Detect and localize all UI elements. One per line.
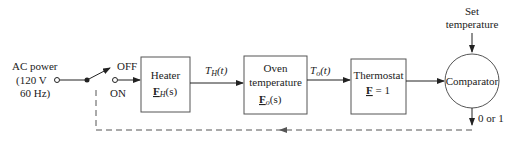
thermostat-title: Thermostat bbox=[353, 69, 403, 81]
heater-block: Heater FH(s) bbox=[141, 57, 190, 112]
heater-title: Heater bbox=[151, 69, 181, 81]
heater-output-signal: TH(t) bbox=[205, 64, 228, 78]
oven-output-signal: To(t) bbox=[310, 64, 331, 78]
on-terminal-icon bbox=[113, 78, 118, 83]
oven-title-line1: Oven bbox=[264, 62, 288, 74]
heater-transfer-function: FH(s) bbox=[153, 85, 177, 99]
feedback-arrow-icon bbox=[279, 127, 287, 133]
oven-title-line2: temperature bbox=[249, 76, 302, 88]
comparator: Comparator bbox=[445, 54, 499, 108]
oven-temperature-block: Oven temperature Fo(s) bbox=[244, 56, 307, 114]
thermostat-transfer-function: F = 1 bbox=[366, 84, 390, 96]
ac-voltage-label: (120 V bbox=[16, 74, 47, 87]
switch-on-label: ON bbox=[110, 87, 126, 99]
oven-transfer-function: Fo(s) bbox=[259, 93, 282, 107]
ac-frequency-label: 60 Hz) bbox=[20, 87, 51, 100]
ac-power-label: AC power bbox=[12, 60, 58, 72]
ac-power-source: AC power (120 V 60 Hz) bbox=[12, 60, 60, 100]
comparator-label: Comparator bbox=[446, 75, 499, 87]
comparator-output-label: 0 or 1 bbox=[478, 112, 504, 124]
setpoint-label-line1: Set bbox=[465, 5, 479, 17]
setpoint-label-line2: temperature bbox=[446, 18, 499, 30]
switch-off-label: OFF bbox=[117, 60, 137, 72]
terminal-icon bbox=[55, 78, 60, 83]
thermostat-block: Thermostat F = 1 bbox=[351, 59, 406, 114]
block-diagram: AC power (120 V 60 Hz) OFF ON Heater FH(… bbox=[0, 0, 515, 144]
